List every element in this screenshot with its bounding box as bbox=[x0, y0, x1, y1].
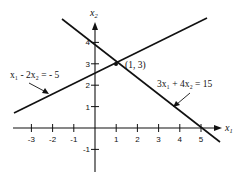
graph-canvas: -3 -2 -1 1 2 3 4 5 4 3 2 1 -1 x1 x2 (1, … bbox=[0, 0, 241, 181]
y-axis-label: x2 bbox=[89, 7, 98, 19]
y-axis-arrow-icon bbox=[92, 22, 98, 30]
x-tick-label: -1 bbox=[70, 135, 78, 144]
x-tick-label: 2 bbox=[135, 135, 140, 144]
x-tick-labels: -3 -2 -1 1 2 3 4 5 bbox=[28, 135, 204, 144]
y-tick-label: 2 bbox=[86, 81, 91, 90]
y-tick-label: -1 bbox=[83, 145, 91, 154]
x-axis-label: x1 bbox=[224, 122, 233, 134]
x-tick-label: -2 bbox=[49, 135, 57, 144]
x-tick-label: 5 bbox=[199, 135, 204, 144]
x-axis-arrow-icon bbox=[214, 125, 222, 131]
y-tick-label: 1 bbox=[86, 103, 91, 112]
intersection-point bbox=[114, 62, 118, 66]
equation-label-line-b: x₁ - 2x₂ = - 5 bbox=[10, 70, 59, 80]
intersection-label: (1, 3) bbox=[125, 60, 146, 71]
x-tick-label: 4 bbox=[178, 135, 183, 144]
y-tick-labels: 4 3 2 1 -1 bbox=[83, 38, 91, 154]
x-tick-label: 1 bbox=[114, 135, 119, 144]
x-tick-label: -3 bbox=[28, 135, 36, 144]
leader-arrow-line-a-icon bbox=[173, 93, 190, 107]
y-tick-label: 3 bbox=[86, 60, 91, 69]
x-axis bbox=[13, 125, 222, 131]
leader-arrow-line-b-icon bbox=[29, 83, 49, 94]
x-tick-label: 3 bbox=[156, 135, 161, 144]
line-x1-minus-2x2-eq-neg5 bbox=[14, 18, 207, 113]
equation-label-line-a: 3x₁ + 4x₂ = 15 bbox=[157, 79, 213, 89]
